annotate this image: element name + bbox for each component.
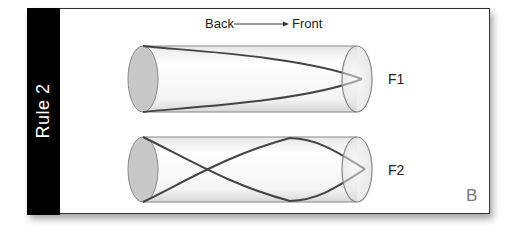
cylinder-f1 (128, 46, 372, 112)
direction-arrow (234, 22, 289, 27)
figure-label-f1: F1 (388, 71, 404, 87)
diagram-canvas (0, 0, 518, 234)
corner-label: B (466, 186, 477, 206)
cylinder-f2 (128, 137, 372, 202)
back-label: Back (205, 16, 234, 31)
front-label: Front (292, 16, 322, 31)
figure-label-f2: F2 (388, 162, 404, 178)
